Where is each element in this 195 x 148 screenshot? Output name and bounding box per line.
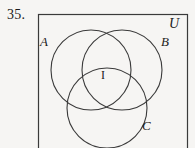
problem-number: 35. (7, 8, 25, 22)
set-label-b: B (161, 35, 169, 48)
region-label-i: I (101, 69, 105, 81)
set-label-a: A (40, 35, 48, 48)
set-label-c: C (142, 119, 151, 132)
figure-canvas: 35. U A B C I (0, 0, 195, 148)
universal-set-label: U (169, 17, 179, 31)
venn-diagram-graphic (0, 0, 195, 148)
